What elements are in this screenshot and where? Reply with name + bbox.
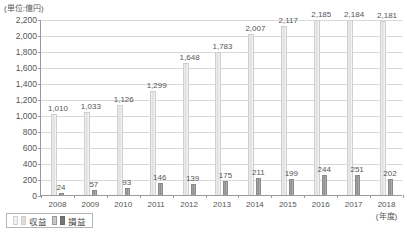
bar-value-label-revenue: 2,117 <box>279 16 298 25</box>
bar-profit[interactable] <box>125 188 130 195</box>
y-axis-label: 2,200 <box>1 15 37 25</box>
x-axis-tick <box>74 195 75 198</box>
y-axis-label: 0 <box>1 191 37 201</box>
bar-value-label-profit: 175 <box>219 171 232 180</box>
bar-group: 2,184251 <box>337 20 370 195</box>
x-axis-tick <box>206 195 207 198</box>
y-axis-label: 1,400 <box>1 79 37 89</box>
x-axis-label: 2016 <box>312 200 330 209</box>
bar-value-label-profit: 251 <box>350 165 363 174</box>
legend-label-revenue: 収益 <box>29 215 47 227</box>
bar-group: 1,03357 <box>74 20 107 195</box>
bar-value-label-profit: 139 <box>186 174 199 183</box>
y-axis-label: 1,800 <box>1 47 37 57</box>
bar-profit[interactable] <box>92 190 97 195</box>
x-axis-label: 2015 <box>279 200 297 209</box>
x-axis-label: 2010 <box>114 200 132 209</box>
legend-swatch-revenue <box>21 216 26 225</box>
bar-value-label-profit: 211 <box>252 168 265 177</box>
bar-value-label-revenue: 2,007 <box>245 24 265 33</box>
bar-profit[interactable] <box>59 193 64 195</box>
x-axis-tick <box>304 195 305 198</box>
plot-area: 02004006008001,0001,2001,4001,6001,8002,… <box>40 20 402 196</box>
x-axis-label: 2014 <box>246 200 264 209</box>
legend-swatch-profit <box>52 216 57 225</box>
x-axis-label: 2017 <box>345 200 363 209</box>
bar-value-label-revenue: 1,783 <box>212 42 232 51</box>
bar-value-label-revenue: 1,010 <box>48 104 68 113</box>
bar-profit[interactable] <box>322 175 327 195</box>
unit-label: (単位:億円) <box>4 2 44 13</box>
bar-group: 2,181202 <box>370 20 403 195</box>
bar-value-label-profit: 202 <box>383 169 396 178</box>
x-axis-unit-note: (年度) <box>376 210 397 221</box>
bar-value-label-profit: 146 <box>153 173 166 182</box>
x-axis-label: 2018 <box>378 200 396 209</box>
bar-profit[interactable] <box>191 184 196 195</box>
bar-group: 1,783175 <box>206 20 239 195</box>
x-axis-tick <box>403 195 404 198</box>
bar-profit[interactable] <box>388 179 393 195</box>
bar-value-label-revenue: 2,185 <box>311 10 331 19</box>
x-axis-tick <box>107 195 108 198</box>
bar-profit[interactable] <box>256 178 261 195</box>
bar-value-label-revenue: 1,648 <box>180 53 200 62</box>
x-axis-tick <box>41 195 42 198</box>
y-axis-label: 2,000 <box>1 31 37 41</box>
x-axis-tick <box>337 195 338 198</box>
bar-group: 1,648139 <box>173 20 206 195</box>
bar-profit[interactable] <box>158 183 163 195</box>
bar-value-label-revenue: 2,184 <box>344 10 364 19</box>
y-axis-label: 1,600 <box>1 63 37 73</box>
legend-item-profit[interactable]: 損益 <box>52 215 86 227</box>
bar-value-label-revenue: 1,033 <box>81 102 101 111</box>
bar-value-label-profit: 93 <box>122 178 131 187</box>
legend-label-profit: 損益 <box>68 215 86 227</box>
bar-value-label-profit: 244 <box>318 165 331 174</box>
bar-value-label-revenue: 1,299 <box>147 81 167 90</box>
y-axis-label: 1,000 <box>1 111 37 121</box>
bar-group: 2,117199 <box>271 20 304 195</box>
bar-value-label-revenue: 1,126 <box>114 95 134 104</box>
y-axis-label: 800 <box>1 127 37 137</box>
chart-legend: 収益損益 <box>6 213 93 228</box>
x-axis-tick <box>173 195 174 198</box>
bar-value-label-revenue: 2,181 <box>377 11 397 20</box>
x-axis-label: 2009 <box>81 200 99 209</box>
x-axis-tick <box>370 195 371 198</box>
legend-swatch-revenue <box>13 216 18 225</box>
bar-group: 1,01024 <box>41 20 74 195</box>
x-axis-label: 2012 <box>180 200 198 209</box>
x-axis-tick <box>238 195 239 198</box>
y-axis-label: 200 <box>1 175 37 185</box>
bar-group: 1,12693 <box>107 20 140 195</box>
legend-item-revenue[interactable]: 収益 <box>13 215 47 227</box>
legend-swatch-profit <box>60 216 65 225</box>
bar-value-label-profit: 199 <box>285 169 298 178</box>
x-axis-label: 2013 <box>213 200 231 209</box>
bar-group: 1,299146 <box>140 20 173 195</box>
bar-profit[interactable] <box>289 179 294 195</box>
bar-value-label-profit: 24 <box>57 183 66 192</box>
x-axis-label: 2011 <box>148 200 165 209</box>
x-axis-tick <box>140 195 141 198</box>
bar-value-label-profit: 57 <box>89 180 98 189</box>
revenue-profit-bar-chart: (単位:億円) 02004006008001,0001,2001,4001,60… <box>0 0 407 233</box>
x-axis-label: 2008 <box>49 200 67 209</box>
y-axis-label: 1,200 <box>1 95 37 105</box>
bar-profit[interactable] <box>223 181 228 195</box>
x-axis-tick <box>271 195 272 198</box>
y-axis-label: 600 <box>1 143 37 153</box>
bar-group: 2,185244 <box>304 20 337 195</box>
bar-group: 2,007211 <box>238 20 271 195</box>
bar-profit[interactable] <box>355 175 360 195</box>
y-axis-label: 400 <box>1 159 37 169</box>
